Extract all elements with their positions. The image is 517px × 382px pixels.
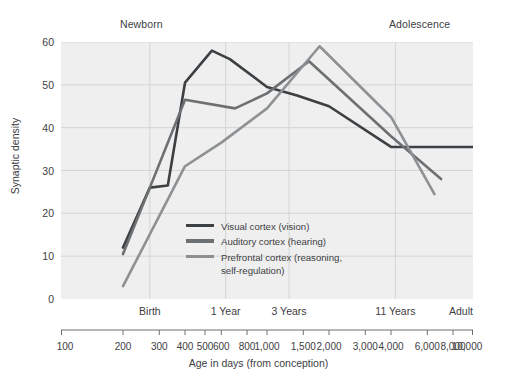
x-axis-ticks	[61, 329, 473, 339]
annotation-adolescence: Adolescence	[389, 18, 450, 30]
x-tick-label: 800	[239, 341, 256, 352]
y-axis-tick-labels: 0102030405060	[22, 42, 54, 299]
y-tick-label: 60	[24, 36, 54, 48]
x-tick-label: 100	[57, 341, 74, 352]
legend-item: Visual cortex (vision)	[186, 220, 342, 233]
x-tick-label: 1,000	[254, 341, 279, 352]
chart-legend: Visual cortex (vision)Auditory cortex (h…	[186, 220, 342, 279]
x-tick-label: 300	[151, 341, 168, 352]
annotation-newborn: Newborn	[120, 18, 163, 30]
legend-item: Auditory cortex (hearing)	[186, 235, 342, 248]
y-tick-label: 40	[24, 122, 54, 134]
phase-label: Birth	[139, 305, 161, 317]
legend-label: Prefrontal cortex (reasoning, self-regul…	[221, 251, 342, 277]
legend-color-swatch	[186, 239, 214, 242]
synaptic-density-chart: Newborn Adolescence Synaptic density 010…	[0, 0, 517, 382]
y-tick-label: 0	[24, 293, 54, 305]
x-tick-label: 600	[213, 341, 230, 352]
phase-label: 1 Year	[211, 305, 241, 317]
x-tick-label: 1,500	[291, 341, 316, 352]
series-line	[123, 51, 473, 248]
x-tick-label: 4,000	[379, 341, 404, 352]
y-tick-label: 20	[24, 207, 54, 219]
y-tick-label: 50	[24, 79, 54, 91]
legend-label: Auditory cortex (hearing)	[221, 235, 326, 248]
y-tick-label: 10	[24, 250, 54, 262]
x-tick-label: 2,000	[316, 341, 341, 352]
y-tick-label: 30	[24, 165, 54, 177]
x-tick-label: 500	[197, 341, 214, 352]
phase-label: 3 Years	[272, 305, 307, 317]
x-tick-label: 3,000	[353, 341, 378, 352]
phase-label: 11 Years	[375, 305, 415, 317]
legend-color-swatch	[186, 255, 214, 258]
legend-label: Visual cortex (vision)	[221, 220, 309, 233]
legend-item: Prefrontal cortex (reasoning, self-regul…	[186, 251, 342, 277]
phase-label: Adult	[449, 305, 473, 317]
legend-color-swatch	[186, 224, 214, 227]
x-tick-label: 400	[177, 341, 194, 352]
x-tick-label: 10,000	[452, 341, 483, 352]
x-tick-label: 200	[115, 341, 132, 352]
x-axis-title: Age in days (from conception)	[0, 357, 517, 369]
y-axis-title: Synaptic density	[9, 86, 21, 226]
x-tick-label: 6,000	[415, 341, 440, 352]
